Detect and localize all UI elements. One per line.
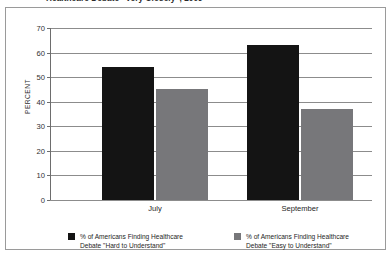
legend-label-easy-to-understand: % of Americans Finding Healthcare Debate…: [246, 232, 349, 250]
y-tick-label: 50: [37, 73, 45, 82]
legend-label-line1: % of Americans Finding Healthcare: [80, 233, 183, 240]
y-tick-label: 0: [41, 196, 45, 205]
legend-swatch-icon-dark: [68, 233, 75, 240]
bar-july-hard: [102, 67, 154, 200]
y-axis-title: PERCENT: [24, 79, 31, 114]
chart-frame: PERCENT 010203040506070 JulySeptember % …: [5, 7, 386, 250]
y-tick-label: 20: [37, 146, 45, 155]
bar-july-easy: [156, 89, 208, 200]
y-tick-label: 40: [37, 97, 45, 106]
legend-label-hard-to-understand: % of Americans Finding Healthcare Debate…: [80, 232, 183, 250]
bar-september-easy: [301, 109, 353, 200]
y-tick-label: 10: [37, 171, 45, 180]
bars-layer: [50, 28, 372, 200]
x-axis-label-september: September: [281, 204, 318, 213]
plot-area: 010203040506070: [50, 28, 372, 200]
legend-item-hard-to-understand: % of Americans Finding Healthcare Debate…: [68, 232, 212, 250]
gridline: [50, 200, 372, 201]
y-tick-mark: [47, 200, 50, 201]
y-tick-label: 60: [37, 48, 45, 57]
legend-label-line1: % of Americans Finding Healthcare: [246, 233, 349, 240]
legend-label-line2: Debate "Easy to Understand": [246, 242, 332, 249]
chart-title: Healthcare Debate "Very Closely", 2009: [46, 0, 366, 3]
chart-legend: % of Americans Finding Healthcare Debate…: [68, 232, 378, 250]
y-tick-label: 70: [37, 24, 45, 33]
legend-swatch-icon-light: [234, 233, 241, 240]
x-axis-label-july: July: [148, 204, 162, 213]
bar-september-hard: [247, 45, 299, 200]
legend-item-easy-to-understand: % of Americans Finding Healthcare Debate…: [234, 232, 378, 250]
legend-label-line2: Debate "Hard to Understand": [80, 242, 165, 249]
y-tick-label: 30: [37, 122, 45, 131]
